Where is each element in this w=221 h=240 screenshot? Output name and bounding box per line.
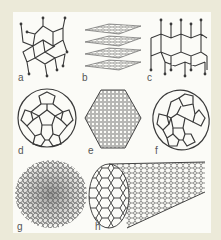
diamond-structure: a	[13, 12, 77, 82]
panel-label-a: a	[18, 73, 24, 83]
lonsdaleite-structure: c	[147, 12, 211, 82]
c70-fullerene: f	[147, 84, 211, 158]
panel-label-f: f	[155, 146, 158, 156]
panel-label-b: b	[82, 73, 88, 83]
figure-panel: a b	[13, 12, 211, 233]
panel-label-c: c	[147, 73, 152, 83]
lonsdaleite-lattice-icon	[147, 12, 211, 82]
c540-fullerene: e	[81, 84, 145, 158]
panel-label-d: d	[18, 146, 24, 156]
amorphous-carbon: g	[13, 158, 89, 233]
panel-label-h: h	[95, 222, 101, 232]
graphite-layers-icon	[79, 12, 147, 82]
panel-label-e: e	[88, 146, 94, 156]
amorphous-carbon-icon	[13, 158, 89, 233]
carbon-nanotube: h	[87, 158, 211, 233]
graphite-structure: b	[79, 12, 147, 82]
c60-fullerene: d	[13, 84, 79, 158]
panel-label-g: g	[17, 222, 23, 232]
carbon-nanotube-icon	[87, 158, 211, 233]
